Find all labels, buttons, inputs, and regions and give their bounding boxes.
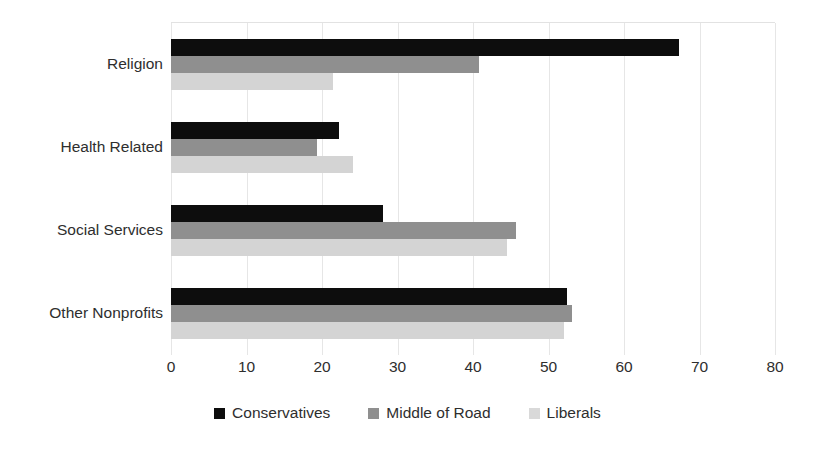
x-axis-tick-label: 70: [691, 358, 708, 376]
bar-group: [171, 272, 775, 355]
y-axis-category-labels: ReligionHealth RelatedSocial ServicesOth…: [0, 22, 163, 355]
x-axis-tick-label: 80: [766, 358, 783, 376]
x-axis-tick-label: 10: [238, 358, 255, 376]
y-axis-label: Other Nonprofits: [0, 272, 163, 355]
bar-fill: [171, 288, 567, 305]
bar-group: [171, 189, 775, 272]
bar-fill: [171, 322, 564, 339]
bar-liberals[interactable]: [171, 73, 333, 90]
legend-item-conservatives[interactable]: Conservatives: [214, 404, 330, 422]
bar-middle-of-road[interactable]: [171, 305, 572, 322]
chart-legend: ConservativesMiddle of RoadLiberals: [0, 404, 815, 422]
x-axis-tick-label: 50: [540, 358, 557, 376]
bar-group: [171, 23, 775, 106]
bar-conservatives[interactable]: [171, 205, 383, 222]
plot-area: [171, 22, 775, 355]
y-axis-label: Health Related: [0, 105, 163, 188]
bar-conservatives[interactable]: [171, 288, 567, 305]
legend-label: Liberals: [547, 404, 601, 422]
bar-liberals[interactable]: [171, 322, 564, 339]
legend-swatch-liberals: [529, 408, 540, 419]
bar-conservatives[interactable]: [171, 39, 679, 56]
bar-fill: [171, 56, 479, 73]
bar-fill: [171, 239, 507, 256]
bar-middle-of-road[interactable]: [171, 56, 479, 73]
legend-item-middle-of-road[interactable]: Middle of Road: [368, 404, 490, 422]
x-axis-tick-labels: 01020304050607080: [171, 358, 775, 382]
bar-fill: [171, 156, 353, 173]
bar-chart: ReligionHealth RelatedSocial ServicesOth…: [0, 0, 815, 455]
bar-group: [171, 106, 775, 189]
bar-fill: [171, 205, 383, 222]
x-axis-tick-label: 30: [389, 358, 406, 376]
x-axis-tick-label: 0: [167, 358, 176, 376]
x-axis-tick-label: 60: [615, 358, 632, 376]
bar-liberals[interactable]: [171, 156, 353, 173]
y-axis-label: Religion: [0, 22, 163, 105]
x-axis-tick-label: 20: [313, 358, 330, 376]
y-axis-label: Social Services: [0, 189, 163, 272]
bar-middle-of-road[interactable]: [171, 222, 516, 239]
legend-item-liberals[interactable]: Liberals: [529, 404, 601, 422]
bar-middle-of-road[interactable]: [171, 139, 317, 156]
bar-groups: [171, 23, 775, 355]
legend-label: Conservatives: [232, 404, 330, 422]
bar-conservatives[interactable]: [171, 122, 339, 139]
gridline-80: [775, 23, 776, 355]
legend-swatch-conservatives: [214, 408, 225, 419]
bar-fill: [171, 73, 333, 90]
bar-fill: [171, 222, 516, 239]
legend-swatch-middle-of-road: [368, 408, 379, 419]
bar-fill: [171, 305, 572, 322]
legend-label: Middle of Road: [386, 404, 490, 422]
bar-fill: [171, 39, 679, 56]
bar-liberals[interactable]: [171, 239, 507, 256]
x-axis-tick-label: 40: [464, 358, 481, 376]
bar-fill: [171, 139, 317, 156]
bar-fill: [171, 122, 339, 139]
